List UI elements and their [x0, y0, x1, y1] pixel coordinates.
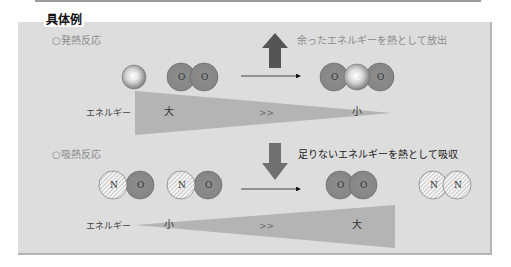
endothermic-heading: ○吸熱反応: [52, 149, 101, 161]
energy-large-label: 大: [352, 220, 362, 230]
nitric-oxide-molecule-1: [99, 171, 154, 199]
nitric-oxide-molecule-2: [167, 171, 222, 199]
atom-label: O: [360, 180, 367, 190]
down-arrow-icon: [262, 143, 288, 180]
atom-label: O: [178, 72, 185, 82]
atom-label: C: [354, 72, 361, 82]
energy-small-label: 小: [352, 107, 362, 117]
up-arrow-icon: [262, 33, 288, 68]
atom-label: O: [205, 180, 212, 190]
energy-small-label: 小: [164, 220, 174, 230]
atom-label: O: [337, 180, 344, 190]
atom-label: O: [377, 72, 384, 82]
atom-label: O: [201, 72, 208, 82]
atom-label: N: [178, 180, 186, 190]
oxygen-molecule: [167, 63, 218, 91]
nitrogen-molecule-product: [419, 171, 471, 199]
atom-label: O: [137, 180, 144, 190]
atom-label: N: [454, 180, 462, 190]
atom-label: N: [110, 180, 118, 190]
energy-label: エネルギー: [86, 221, 131, 231]
atom-label: N: [430, 180, 438, 190]
exothermic-heading: ○発熱反応: [52, 35, 101, 47]
atom-label: C: [131, 72, 138, 82]
oxygen-molecule-product: [326, 171, 377, 199]
atom-label: O: [331, 72, 338, 82]
energy-large-label: 大: [164, 107, 174, 117]
energy-comparison-label: >>: [259, 108, 274, 118]
exothermic-description: 余ったエネルギーを熱として放出: [297, 35, 447, 47]
energy-label: エネルギー: [86, 108, 131, 118]
endothermic-description: 足りないエネルギーを熱として吸収: [298, 149, 458, 161]
energy-comparison-label: >>: [259, 221, 274, 231]
